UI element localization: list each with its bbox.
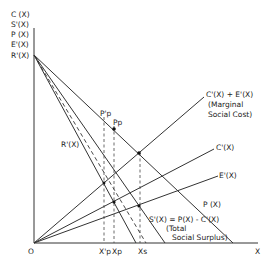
xp-prime-intersection (103, 182, 106, 185)
xs-tick: Xs (138, 247, 147, 256)
pp-prime-label: P'p (100, 109, 112, 118)
r-prime-curve (34, 55, 136, 243)
s-prime-curve (34, 55, 165, 243)
e-prime-label: E'(X) (219, 171, 237, 180)
xp-prime-tick: X'p (99, 247, 111, 256)
economics-diagram: C (X) S'(X) P (X) E'(X) R'(X) O X P'p Pp… (0, 0, 274, 271)
mc-p-intersection (137, 151, 141, 155)
xs-intersection (137, 204, 140, 207)
mc-label-line2: (Marginal (208, 100, 243, 109)
mc-label-line1: C'(X) + E'(X) (206, 90, 253, 99)
c-prime-curve (34, 149, 214, 243)
pp-label: Pp (113, 118, 123, 127)
r-prime-label: R'(X) (61, 140, 79, 149)
p-label: P (X) (203, 200, 221, 209)
x-axis-label: X (255, 247, 260, 256)
s-prime-label-line1: S'(X) = P(X) - C'(X) (149, 215, 219, 224)
origin-label: O (28, 247, 34, 256)
y-axis-labels: C (X) S'(X) P (X) E'(X) R'(X) (11, 10, 30, 60)
y-label-c: C (X) (11, 10, 30, 19)
pp-point (112, 127, 116, 131)
y-label-p: P (X) (11, 30, 29, 39)
xp-tick: Xp (112, 247, 122, 256)
y-label-e-prime: E'(X) (11, 40, 29, 49)
mc-label-line3: Social Cost) (208, 110, 252, 119)
dashed-curve (34, 55, 146, 243)
s-prime-label-line3: Social Surplus) (172, 233, 228, 242)
c-prime-label: C'(X) (216, 143, 234, 152)
s-prime-label-line2: (Total (166, 224, 186, 233)
xp-intersection (112, 200, 115, 203)
y-label-r-prime: R'(X) (11, 51, 29, 60)
y-label-s-prime: S'(X) (11, 20, 29, 29)
